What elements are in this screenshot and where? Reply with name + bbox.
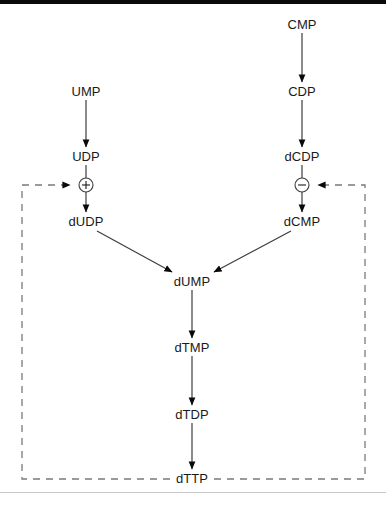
node-dcdp: dCDP bbox=[281, 150, 322, 164]
node-dtdp: dTDP bbox=[172, 408, 212, 422]
node-dudp: dUDP bbox=[65, 215, 106, 229]
node-udp: UDP bbox=[69, 150, 103, 164]
node-dump: dUMP bbox=[171, 275, 214, 289]
pathway-svg bbox=[0, 0, 386, 505]
node-cdp: CDP bbox=[285, 85, 319, 99]
inhibition-minus-icon bbox=[295, 178, 309, 192]
node-dtmp: dTMP bbox=[171, 341, 212, 355]
node-dcmp: dCMP bbox=[281, 215, 324, 229]
bottom-divider bbox=[0, 492, 386, 493]
feedback-dashed-right bbox=[214, 185, 365, 479]
node-dttp: dTTP bbox=[173, 472, 211, 486]
pathway-diagram: UMP UDP dUDP CMP CDP dCDP dCMP dUMP dTMP… bbox=[0, 0, 386, 505]
activation-plus-icon bbox=[79, 178, 93, 192]
arrow-dcmp-to-dump bbox=[214, 231, 291, 272]
arrow-dudp-to-dump bbox=[97, 231, 172, 272]
feedback-dashed-left bbox=[22, 185, 170, 479]
node-ump: UMP bbox=[68, 85, 103, 99]
caption-clipped bbox=[0, 497, 386, 505]
node-cmp: CMP bbox=[284, 18, 319, 32]
